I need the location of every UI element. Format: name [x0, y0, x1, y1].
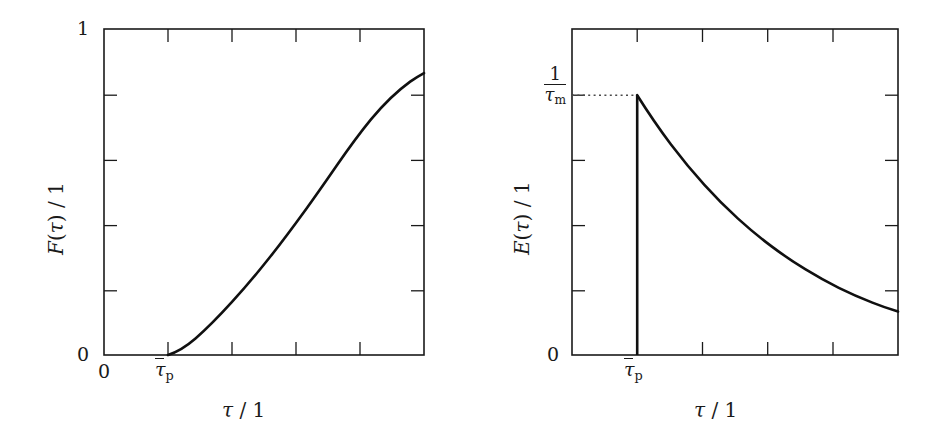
curve-density-E: [637, 95, 898, 311]
y-axis-label-cumulative: F(τ) / 1: [46, 182, 66, 255]
y-axis-paren-close: ): [44, 214, 68, 222]
y-tick-label-bottom-right: 0: [547, 345, 559, 364]
x-axis-label-density: τ / 1: [694, 400, 737, 420]
x-axis-ticks-top: [637, 29, 833, 42]
y-tick-label-peak-fraction: 1 τm: [504, 65, 566, 107]
y-axis-ticks-right: [885, 95, 898, 291]
figure-container: 1 0 0 τp F(τ) / 1 τ / 1: [0, 0, 936, 443]
y-axis-divisor: 1: [44, 182, 68, 195]
tau-subscript-p: p: [166, 368, 174, 383]
x-axis-ticks-bottom: [637, 342, 833, 355]
fraction-denominator: τm: [544, 85, 566, 107]
tau-subscript-p: p: [635, 368, 643, 383]
x-tick-label-origin-left: 0: [98, 362, 110, 381]
y-axis-ticks-right: [411, 95, 424, 291]
y-tick-label-top-left: 1: [77, 19, 89, 38]
tau-bar-glyph: τ: [155, 360, 166, 379]
y-axis-paren-open: (: [44, 233, 68, 241]
x-axis-tau: τ: [694, 398, 705, 422]
fraction-numerator: 1: [544, 65, 566, 85]
axes-frame: [572, 29, 898, 355]
y-axis-slash: /: [510, 201, 534, 208]
x-axis-slash-one: / 1: [239, 398, 265, 422]
plot-canvas-cumulative: [0, 0, 468, 443]
y-axis-ticks-left: [572, 95, 585, 291]
y-axis-func-E: E: [510, 240, 534, 255]
y-tick-label-bottom-left: 0: [77, 345, 89, 364]
fraction-one-over-tau-m: 1 τm: [544, 65, 566, 107]
y-axis-divisor: 1: [510, 181, 534, 194]
x-axis-tau: τ: [222, 398, 233, 422]
tau-bar-glyph: τ: [624, 360, 635, 379]
y-axis-arg-tau: τ: [510, 222, 534, 233]
y-axis-ticks-left: [104, 95, 117, 291]
y-axis-func-F: F: [44, 241, 68, 255]
tau-bar-glyph-m: τ: [544, 86, 554, 104]
y-axis-arg-tau: τ: [44, 222, 68, 233]
panel-cumulative-distribution: 1 0 0 τp F(τ) / 1 τ / 1: [0, 0, 468, 443]
x-axis-ticks-bottom: [168, 342, 360, 355]
curve-cumulative-F: [168, 73, 424, 355]
x-axis-ticks-top: [168, 29, 360, 42]
y-axis-paren-open: (: [510, 233, 534, 241]
y-axis-paren-close: ): [510, 214, 534, 222]
axes-frame: [104, 29, 424, 355]
tau-subscript-m: m: [554, 94, 566, 108]
panel-density-distribution: 1 τm 0 τp E(τ) / 1 τ / 1: [468, 0, 936, 443]
y-axis-slash: /: [44, 201, 68, 208]
x-tick-label-tau-p-left: τp: [155, 360, 174, 383]
y-axis-label-density: E(τ) / 1: [512, 181, 532, 255]
x-tick-label-tau-p-right: τp: [624, 360, 643, 383]
x-axis-label-cumulative: τ / 1: [222, 400, 265, 420]
x-axis-slash-one: / 1: [711, 398, 737, 422]
